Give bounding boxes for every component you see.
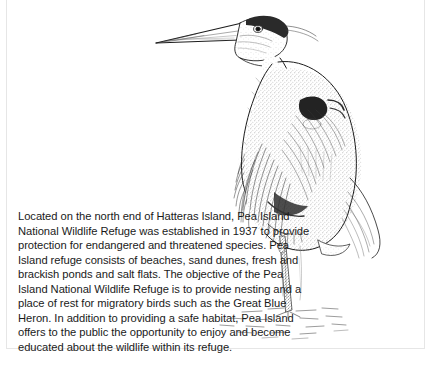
document-page: Located on the north end of Hatteras Isl… [0, 0, 436, 370]
caption-text: Located on the north end of Hatteras Isl… [18, 209, 310, 354]
